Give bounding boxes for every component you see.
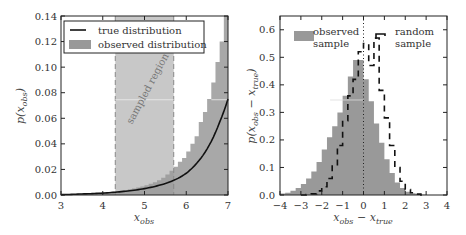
- legend-observed-swatch: [294, 31, 314, 41]
- y-tick-label: 0.12: [35, 36, 57, 47]
- legend-observed-line1: observed: [313, 26, 360, 37]
- legend-observed-line2: sample: [313, 38, 349, 49]
- legend-random-line2: sample: [395, 38, 431, 49]
- x-tick-label: 7: [225, 200, 231, 211]
- y-tick-label: 0.14: [35, 11, 57, 22]
- left-x-axis-label: xobs: [134, 211, 154, 226]
- right-legend-random: random sample: [376, 26, 435, 49]
- y-tick-label: 0.10: [35, 62, 57, 73]
- legend-patch-swatch: [69, 40, 91, 49]
- y-tick-label: 0.6: [259, 24, 275, 35]
- x-tick-label: 3: [58, 200, 64, 211]
- y-tick-label: 0.00: [35, 190, 57, 201]
- y-tick-label: 0.06: [35, 113, 57, 124]
- left-legend: true distribution observed distribution: [64, 21, 207, 53]
- x-tick-label: 5: [141, 200, 147, 211]
- y-tick-label: 0.5: [259, 52, 275, 63]
- figure: sampled region 345670.000.020.040.060.08…: [0, 0, 466, 235]
- y-tick-label: 0.1: [259, 162, 275, 173]
- x-tick-label: 4: [444, 200, 450, 211]
- left-y-axis-label: p(xobs): [14, 88, 29, 124]
- x-tick-label: 6: [183, 200, 189, 211]
- right-y-axis-label: p(xobs − xtrue): [245, 68, 260, 143]
- x-tick-label: −1: [335, 200, 350, 211]
- y-tick-label: 0.08: [35, 87, 57, 98]
- x-tick-label: 1: [381, 200, 387, 211]
- right-chart-panel: −4−3−2−1012340.00.10.20.30.40.50.6 obser…: [245, 16, 450, 226]
- y-tick-label: 0.2: [259, 134, 275, 145]
- y-tick-label: 0.04: [35, 138, 57, 149]
- y-tick-label: 0.3: [259, 107, 275, 118]
- legend-true-distribution: true distribution: [98, 25, 182, 36]
- right-x-axis-label: xobs − xtrue: [333, 211, 393, 226]
- x-tick-label: −4: [273, 200, 288, 211]
- x-tick-label: 0: [360, 200, 366, 211]
- x-tick-label: 3: [423, 200, 429, 211]
- y-tick-label: 0.4: [259, 79, 275, 90]
- x-tick-label: 2: [402, 200, 408, 211]
- legend-random-line1: random: [395, 26, 435, 37]
- y-tick-label: 0.02: [35, 164, 57, 175]
- x-tick-label: −2: [314, 200, 329, 211]
- right-legend-observed: observed sample: [294, 26, 360, 49]
- legend-observed-distribution: observed distribution: [98, 39, 207, 50]
- x-tick-label: −3: [294, 200, 309, 211]
- y-tick-label: 0.0: [259, 190, 275, 201]
- x-tick-label: 4: [100, 200, 106, 211]
- left-chart-panel: sampled region 345670.000.020.040.060.08…: [14, 11, 231, 227]
